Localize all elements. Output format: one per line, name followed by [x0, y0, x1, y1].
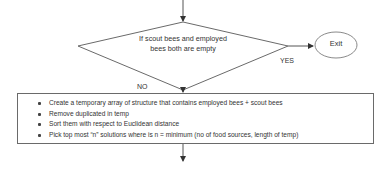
- decision-label: If scout bees and employed bees both are…: [118, 34, 248, 54]
- decision-label-line-2: bees both are empty: [118, 44, 248, 54]
- yes-branch-label: YES: [280, 57, 294, 64]
- process-step-text: Create a temporary array of structure th…: [49, 99, 283, 106]
- flowchart-canvas: [0, 0, 386, 174]
- process-step-text: Sort them with respect to Euclidean dist…: [49, 120, 179, 127]
- process-step: Pick top most “n” solutions where is n =…: [38, 130, 298, 141]
- bullet-icon: [38, 113, 41, 116]
- exit-label: Exit: [316, 39, 356, 48]
- bullet-icon: [38, 134, 41, 137]
- bullet-icon: [38, 102, 41, 105]
- process-steps-list: Create a temporary array of structure th…: [38, 98, 298, 140]
- process-step: Create a temporary array of structure th…: [38, 98, 298, 109]
- process-box: Create a temporary array of structure th…: [17, 93, 374, 144]
- decision-label-line-1: If scout bees and employed: [118, 34, 248, 44]
- process-step: Sort them with respect to Euclidean dist…: [38, 119, 298, 130]
- bullet-icon: [38, 123, 41, 126]
- process-step: Remove duplicated in temp: [38, 109, 298, 120]
- no-branch-label: NO: [137, 83, 148, 90]
- process-step-text: Remove duplicated in temp: [49, 110, 129, 117]
- decision-diamond: [78, 22, 288, 90]
- process-step-text: Pick top most “n” solutions where is n =…: [49, 131, 298, 138]
